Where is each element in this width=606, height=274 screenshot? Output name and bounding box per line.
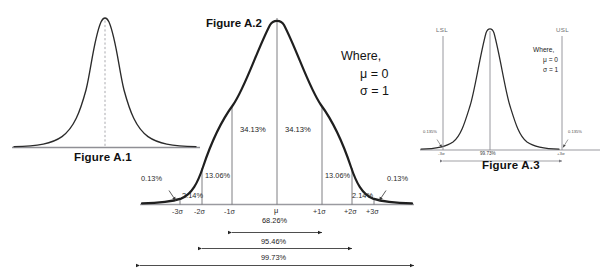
figure-a3-leader-left (437, 140, 442, 148)
figure-a3-tail-pct-left: 0.135% (423, 130, 437, 134)
figure-a2-span-label-3sigma: 99.73% (261, 254, 286, 261)
vector-layer (0, 0, 606, 274)
figure-a1-caption: Figure A.1 (74, 152, 132, 164)
figure-a2-where-sigma: σ = 1 (360, 85, 389, 98)
figure-a2-leader-right (379, 191, 386, 202)
figure-a2-pct-right-tail: 0.13% (387, 175, 408, 182)
figure-a3-tick-plus3: +3σ (557, 152, 565, 156)
figure-a2-pct-plus1-plus2: 13.06% (325, 172, 350, 179)
figure-a2-tick-mu: μ (274, 207, 278, 214)
figure-a2-tick-plus1: +1σ (313, 208, 326, 215)
figure-a2-pct-mu-plus1: 34.13% (285, 126, 311, 134)
figure-a2-where-label: Where, (341, 50, 381, 63)
figure-a2-tick-plus3: +3σ (366, 208, 379, 215)
figure-a3-tail-pct-right: 0.135% (568, 130, 582, 134)
figure-a2-tick-minus2: -2σ (194, 208, 205, 215)
figure-a3-leader-right (563, 140, 568, 148)
figure-a2-tick-minus3: -3σ (172, 208, 183, 215)
figure-a3-caption: Figure A.3 (482, 160, 540, 172)
figure-a3-where-label: Where, (533, 47, 554, 54)
figure-a1-graphic (12, 18, 200, 148)
figure-a3-where-sigma: σ = 1 (543, 67, 558, 74)
figure-a2-title: Figure A.2 (206, 18, 262, 30)
figure-a2-tick-plus2: +2σ (344, 208, 357, 215)
figure-a3-tick-minus3: -3σ (438, 152, 445, 156)
figure-a2-pct-minus1-mu: 34.13% (240, 126, 266, 134)
figure-a2-pct-minus3-minus2: 2.14% (182, 192, 203, 199)
figure-a2-tick-minus1: -1σ (224, 208, 235, 215)
figure-a2-span-label-2sigma: 95.46% (261, 238, 286, 245)
figure-a2-pct-plus2-plus3: 2.14% (352, 192, 373, 199)
figure-a2-pct-left-tail: 0.13% (141, 175, 162, 182)
diagram-canvas: Figure A.1 Figure A.2 Where, μ = 0 σ = 1… (0, 0, 606, 274)
figure-a3-usl-label: USL (556, 27, 569, 33)
figure-a3-graphic (420, 29, 600, 161)
figure-a3-where-mu: μ = 0 (543, 57, 558, 64)
figure-a3-center-pct: 99.73% (480, 152, 496, 157)
figure-a2-where-mu: μ = 0 (360, 68, 388, 81)
figure-a2-leader-left (169, 191, 176, 202)
figure-a2-pct-minus2-minus1: 13.06% (205, 172, 230, 179)
figure-a2-mu-sublabel: 68.26% (262, 217, 287, 224)
figure-a3-lsl-label: LSL (436, 27, 448, 33)
